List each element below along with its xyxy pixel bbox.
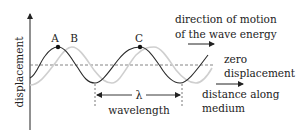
point-a-label: A <box>50 32 59 44</box>
wavelength-label: wavelength <box>108 104 170 116</box>
zero-label-line2: displacement <box>224 67 296 79</box>
lambda-symbol: λ <box>136 89 143 102</box>
direction-label-line2: of the wave energy <box>175 28 277 40</box>
y-axis-label: displacement <box>13 36 25 108</box>
point-c-label: C <box>135 32 143 44</box>
distance-label-line1: distance along <box>202 88 280 100</box>
distance-label-line2: medium <box>202 102 245 114</box>
point-c-marker <box>138 45 142 49</box>
wave-later-curve <box>30 47 212 85</box>
point-b-label: B <box>70 32 78 44</box>
zero-label-line1: zero <box>224 53 247 65</box>
direction-label-line1: direction of motion <box>175 13 277 25</box>
point-a-marker <box>56 45 60 49</box>
wave-diagram: displacement A B C λ wavelength directio… <box>0 0 299 135</box>
